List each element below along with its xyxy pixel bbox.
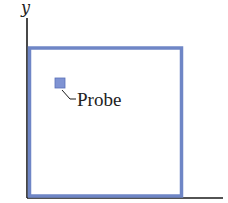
diagram-canvas: y Probe [0, 0, 228, 203]
square-region-border [30, 48, 182, 196]
probe-label: Probe [77, 90, 121, 109]
probe-marker [55, 78, 65, 88]
y-axis-label: y [21, 0, 30, 16]
probe-leader-line [62, 90, 76, 99]
